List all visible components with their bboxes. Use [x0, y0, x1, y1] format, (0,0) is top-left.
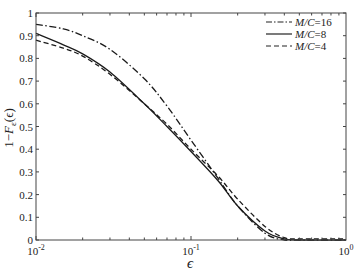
y-axis-label: 1−Fε(ϵ) [1, 108, 18, 148]
legend: M/C=16 M/C=8 M/C=4 [266, 16, 332, 52]
svg-text:M/C=4: M/C=4 [294, 40, 327, 52]
y-tick-label: 0.3 [19, 166, 33, 178]
x-axis-label: ϵ [187, 255, 194, 271]
y-tick-label: 0.7 [19, 75, 33, 87]
line-chart: 00.10.20.30.40.50.60.70.80.91 10-210-110… [0, 0, 360, 274]
legend-item-mc8: M/C=8 [266, 28, 327, 40]
x-tick-label: 100 [339, 243, 354, 257]
y-tick-label: 0.6 [19, 98, 33, 110]
legend-item-mc16: M/C=16 [266, 16, 332, 28]
y-tick-label: 0.1 [19, 211, 33, 223]
series-line-mc4 [36, 40, 346, 239]
x-tick-label: 10-2 [27, 243, 45, 257]
svg-text:M/C=16: M/C=16 [294, 16, 332, 28]
data-curves [36, 24, 346, 240]
series-line-mc8 [36, 33, 346, 240]
y-tick-label: 0.4 [19, 143, 33, 155]
y-tick-label: 0.5 [19, 121, 33, 133]
svg-text:M/C=8: M/C=8 [294, 28, 327, 40]
legend-item-mc4: M/C=4 [266, 40, 327, 52]
y-tick-label: 0.8 [19, 52, 33, 64]
y-tick-label: 0.9 [19, 30, 33, 42]
y-tick-label: 1 [28, 7, 34, 19]
y-tick-label: 0.2 [19, 189, 33, 201]
